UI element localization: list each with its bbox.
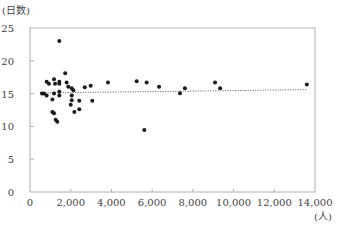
- data-point: [178, 91, 182, 95]
- y-axis-title: (日数): [2, 4, 30, 16]
- data-point: [53, 82, 57, 86]
- data-point: [213, 80, 217, 84]
- y-tick-label: 10: [1, 121, 14, 132]
- data-point: [71, 88, 75, 92]
- x-tick-label: 4,000: [97, 197, 126, 208]
- trend-line: [40, 90, 307, 93]
- scatter-chart: 02,0004,0006,0008,00010,00012,00014,000 …: [0, 0, 339, 228]
- data-point: [72, 110, 76, 114]
- y-tick-label: 0: [8, 187, 14, 198]
- y-tick-label: 15: [1, 89, 14, 100]
- data-points: [40, 39, 309, 132]
- data-point: [218, 86, 222, 90]
- data-point: [47, 82, 51, 86]
- data-point: [305, 82, 309, 86]
- y-tick-label: 5: [8, 154, 14, 165]
- x-tick-label: 14,000: [298, 197, 333, 208]
- y-axis: 0510152025: [1, 23, 34, 198]
- data-point: [52, 77, 56, 81]
- data-point: [57, 90, 61, 94]
- data-point: [50, 98, 54, 102]
- data-point: [77, 99, 81, 103]
- x-tick-label: 10,000: [216, 197, 251, 208]
- data-point: [57, 39, 61, 43]
- data-point: [183, 86, 187, 90]
- plot-area: [30, 28, 315, 192]
- y-tick-label: 25: [1, 23, 14, 34]
- data-point: [157, 85, 161, 89]
- data-point: [66, 85, 70, 89]
- data-point: [70, 98, 74, 102]
- data-point: [90, 99, 94, 103]
- data-point: [57, 82, 61, 86]
- data-point: [57, 94, 61, 98]
- data-point: [145, 80, 149, 84]
- data-point: [52, 92, 56, 96]
- data-point: [106, 80, 110, 84]
- x-tick-label: 2,000: [56, 197, 85, 208]
- data-point: [55, 120, 59, 124]
- data-point: [45, 94, 49, 98]
- data-point: [52, 111, 56, 115]
- data-point: [65, 80, 69, 84]
- data-point: [89, 84, 93, 88]
- x-tick-label: 8,000: [179, 197, 208, 208]
- x-tick-label: 12,000: [257, 197, 292, 208]
- x-tick-label: 6,000: [138, 197, 167, 208]
- data-point: [69, 103, 73, 107]
- x-tick-label: 0: [27, 197, 33, 208]
- data-point: [142, 128, 146, 132]
- data-point: [135, 79, 139, 83]
- data-point: [63, 71, 67, 75]
- data-point: [77, 107, 81, 111]
- data-point: [83, 85, 87, 89]
- x-axis-title: (人): [314, 211, 332, 222]
- y-tick-label: 20: [1, 56, 14, 67]
- data-point: [70, 94, 74, 98]
